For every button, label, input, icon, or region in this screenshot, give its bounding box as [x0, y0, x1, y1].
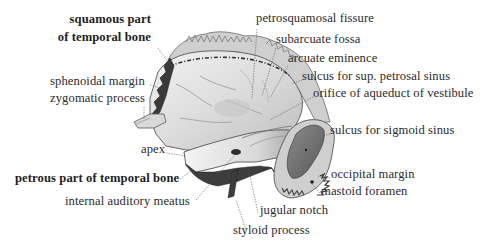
- label-mastoid-foramen: mastoid foramen: [321, 185, 407, 198]
- label-orifice-aqueduct-vestibule: orifice of aqueduct of vestibule: [313, 87, 474, 100]
- label-zygomatic-process: zygomatic process: [50, 92, 145, 105]
- label-squamous-part-line1: squamous part: [40, 13, 151, 26]
- label-occipital-margin: occipital margin: [331, 168, 415, 181]
- label-jugular-notch: jugular notch: [260, 204, 328, 217]
- label-arcuate-eminence: arcuate eminence: [288, 52, 377, 65]
- label-petrosquamosal-fissure: petrosquamosal fissure: [256, 12, 374, 25]
- label-styloid-process: styloid process: [233, 224, 310, 237]
- label-sulcus-sigmoid-sinus: sulcus for sigmoid sinus: [330, 124, 455, 137]
- label-sulcus-sup-petrosal-sinus: sulcus for sup. petrosal sinus: [302, 70, 450, 83]
- label-apex: apex: [141, 143, 165, 156]
- temporal-bone-diagram: squamous part of temporal bone sphenoida…: [0, 0, 494, 248]
- label-subarcuate-fossa: subarcuate fossa: [276, 33, 360, 46]
- label-squamous-part-line2: of temporal bone: [40, 31, 151, 44]
- label-sphenoidal-margin: sphenoidal margin: [50, 75, 145, 88]
- label-petrous-part: petrous part of temporal bone: [15, 172, 179, 185]
- label-internal-auditory-meatus: internal auditory meatus: [65, 195, 190, 208]
